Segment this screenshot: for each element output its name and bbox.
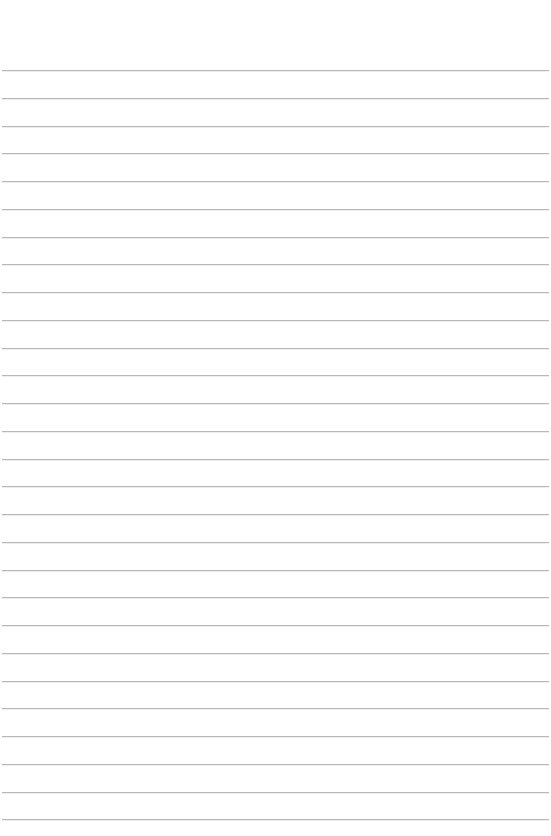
- ruled-line: [2, 819, 549, 820]
- ruled-line: [2, 625, 549, 626]
- ruled-line: [2, 237, 549, 238]
- ruled-line: [2, 153, 549, 154]
- ruled-line: [2, 375, 549, 376]
- ruled-line: [2, 320, 549, 321]
- ruled-line: [2, 459, 549, 460]
- lined-paper-sheet: [0, 0, 551, 836]
- ruled-line: [2, 292, 549, 293]
- ruled-line: [2, 209, 549, 210]
- ruled-line: [2, 348, 549, 349]
- ruled-line: [2, 70, 549, 71]
- ruled-line: [2, 126, 549, 127]
- ruled-line: [2, 792, 549, 793]
- ruled-line: [2, 264, 549, 265]
- ruled-line: [2, 98, 549, 99]
- ruled-line: [2, 736, 549, 737]
- ruled-line: [2, 431, 549, 432]
- ruled-line: [2, 542, 549, 543]
- ruled-line: [2, 514, 549, 515]
- ruled-line: [2, 486, 549, 487]
- ruled-line: [2, 653, 549, 654]
- ruled-line: [2, 708, 549, 709]
- ruled-line: [2, 403, 549, 404]
- ruled-line: [2, 681, 549, 682]
- ruled-line: [2, 764, 549, 765]
- ruled-line: [2, 597, 549, 598]
- ruled-line: [2, 181, 549, 182]
- ruled-line: [2, 570, 549, 571]
